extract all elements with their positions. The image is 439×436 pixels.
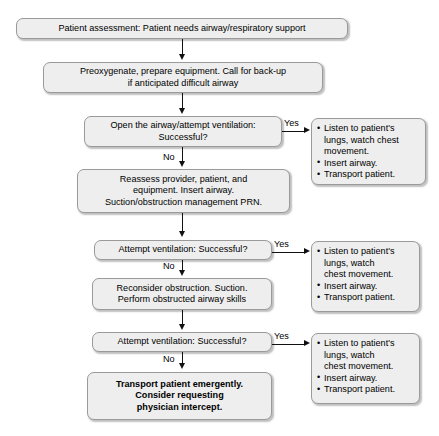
node-reassess-label: Reassess provider, patient, and equipmen… [105, 174, 262, 208]
node-decision-attempt-ventilation-2-label: Attempt ventilation: Successful? [119, 244, 248, 255]
node-outcome-3: Listen to patient's lungs, watch chest m… [311, 333, 420, 404]
list-item: Listen to patient's lungs, watch chest m… [317, 338, 415, 373]
edge-label-yes-1: Yes [284, 118, 299, 128]
list-item: Listen to patient's lungs, watch chest m… [317, 123, 421, 158]
list-item: Insert airway. [317, 281, 415, 293]
list-item: Transport patient. [317, 169, 421, 181]
node-decision-attempt-ventilation-3: Attempt ventilation: Successful? [92, 332, 272, 352]
list-item: Transport patient. [317, 384, 415, 396]
node-decision-open-airway: Open the airway/attempt ventilation: Suc… [84, 116, 282, 147]
node-decision-attempt-ventilation-2: Attempt ventilation: Successful? [94, 240, 272, 260]
connector-decision1-yes [282, 131, 306, 132]
node-preoxygenate-label: Preoxygenate, prepare equipment. Call fo… [80, 66, 286, 89]
node-patient-assessment: Patient assessment: Patient needs airway… [16, 18, 348, 39]
node-transport-emergently: Transport patient emergently. Consider r… [87, 372, 272, 420]
edge-label-yes-2: Yes [274, 239, 289, 249]
list-item: Insert airway. [317, 158, 421, 170]
node-decision-open-airway-label: Open the airway/attempt ventilation: Suc… [110, 120, 255, 143]
outcome-2-list: Listen to patient's lungs, watch chest m… [317, 246, 415, 304]
connector-reassess-to-decision2 [182, 213, 183, 233]
node-preoxygenate: Preoxygenate, prepare equipment. Call fo… [43, 62, 323, 93]
arrowhead-decision2-yes [304, 248, 310, 254]
node-outcome-1: Listen to patient's lungs, watch chest m… [311, 118, 426, 185]
connector-decision2-yes [272, 252, 306, 253]
edge-label-no-3: No [163, 354, 175, 364]
arrowhead-decision3-yes [304, 340, 310, 346]
edge-label-no-2: No [163, 261, 175, 271]
list-item: Insert airway. [317, 373, 415, 385]
node-outcome-2: Listen to patient's lungs, watch chest m… [311, 241, 420, 312]
node-reconsider-obstruction: Reconsider obstruction. Suction. Perform… [92, 278, 272, 310]
node-transport-emergently-label: Transport patient emergently. Consider r… [116, 379, 243, 413]
arrowhead-assessment-to-preoxygenate [179, 54, 185, 60]
node-decision-attempt-ventilation-3-label: Attempt ventilation: Successful? [118, 336, 247, 347]
arrowhead-reassess-to-decision2 [179, 231, 185, 237]
arrowhead-reconsider-to-decision3 [179, 324, 185, 330]
edge-label-no-1: No [163, 152, 175, 162]
node-patient-assessment-label: Patient assessment: Patient needs airway… [58, 23, 305, 34]
flowchart-canvas: Patient assessment: Patient needs airway… [0, 0, 439, 436]
outcome-1-list: Listen to patient's lungs, watch chest m… [317, 123, 421, 181]
node-reconsider-obstruction-label: Reconsider obstruction. Suction. Perform… [117, 283, 248, 306]
list-item: Transport patient. [317, 292, 415, 304]
arrowhead-preoxygenate-to-decision1 [179, 108, 185, 114]
node-reassess: Reassess provider, patient, and equipmen… [77, 169, 290, 213]
arrowhead-decision1-yes [304, 127, 310, 133]
arrowhead-decision2-no [179, 270, 185, 276]
outcome-3-list: Listen to patient's lungs, watch chest m… [317, 338, 415, 396]
list-item: Listen to patient's lungs, watch chest m… [317, 246, 415, 281]
edge-label-yes-3: Yes [274, 331, 289, 341]
connector-decision3-yes [272, 344, 306, 345]
arrowhead-decision3-no [179, 363, 185, 369]
arrowhead-decision1-no [179, 161, 185, 167]
